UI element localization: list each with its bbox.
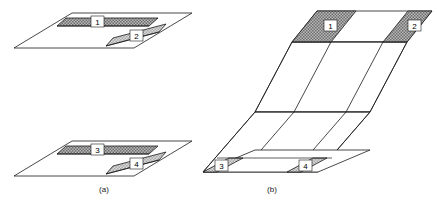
sheet-deformation-diagram: 1 2 3 4 <box>0 0 437 204</box>
cell-1b-label: 1 <box>328 22 333 31</box>
cell-1-label: 1 <box>95 18 100 27</box>
caption-b: (b) <box>267 185 277 194</box>
cell-2b-label: 2 <box>412 22 417 31</box>
cell-4-label: 4 <box>134 160 139 169</box>
cell-4b-label: 4 <box>303 162 308 171</box>
cell-3b-label: 3 <box>219 162 224 171</box>
cell-3-label: 3 <box>95 146 100 155</box>
cell-2-label: 2 <box>134 32 139 41</box>
figure-container: 1 2 3 4 <box>0 0 437 204</box>
caption-a: (a) <box>99 185 109 194</box>
cell-3-region <box>57 146 158 154</box>
cell-1-region <box>57 18 158 26</box>
